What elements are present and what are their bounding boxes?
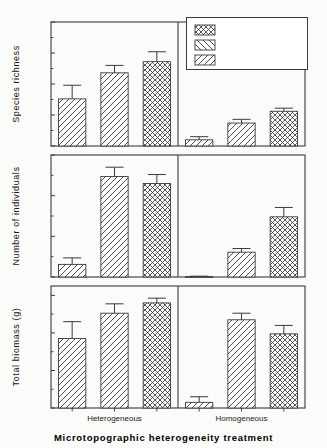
bar-0-0-2 xyxy=(143,62,170,146)
y-axis-title-species-richness: Species richness xyxy=(11,22,21,146)
legend-swatch-2 xyxy=(195,55,215,65)
bar-0-0-1 xyxy=(101,73,128,146)
bar-1-1-0 xyxy=(186,277,213,278)
legend-swatch-1 xyxy=(195,40,215,50)
bar-1-1-2 xyxy=(270,217,297,277)
bar-2-1-0 xyxy=(186,402,213,408)
y-axis-title-number-of-individuals: Number of individuals xyxy=(11,155,21,277)
bar-0-1-2 xyxy=(270,111,297,146)
bar-2-0-1 xyxy=(101,313,128,408)
bar-1-0-0 xyxy=(59,264,86,277)
bar-2-0-0 xyxy=(59,339,86,408)
y-axis-title-total-biomass: Total biomass (g) xyxy=(11,286,21,408)
legend-swatch-0 xyxy=(195,25,215,35)
bar-0-0-0 xyxy=(59,99,86,146)
x-axis-title: Microtopographic heterogeneity treatment xyxy=(0,432,327,443)
figure-panel-group: Species richnessNumber of individualsTot… xyxy=(0,0,327,448)
bar-1-1-1 xyxy=(228,252,255,277)
bar-1-0-2 xyxy=(143,183,170,277)
bar-2-0-2 xyxy=(143,303,170,408)
bar-0-1-1 xyxy=(228,123,255,146)
x-group-label-heterogeneous: Heterogeneous xyxy=(60,414,170,423)
bar-2-1-1 xyxy=(228,320,255,408)
bar-0-1-0 xyxy=(186,140,213,146)
x-group-label-homogeneous: Homogeneous xyxy=(187,414,297,423)
bar-2-1-2 xyxy=(270,334,297,408)
bar-1-0-1 xyxy=(101,177,128,277)
legend-box xyxy=(186,17,308,70)
